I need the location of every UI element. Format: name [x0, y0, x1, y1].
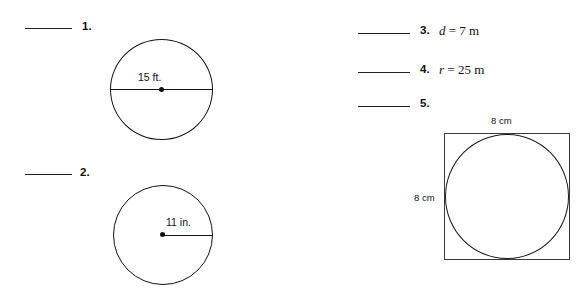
expression-4: r = 25 m	[439, 63, 484, 76]
figure-square-circle-5: 8 cm 8 cm	[406, 116, 576, 266]
expression-value-4: = 25 m	[444, 62, 484, 77]
measure-label-1: 15 ft.	[138, 72, 161, 83]
answer-blank-2[interactable]	[25, 174, 72, 175]
figure-circle-1: 15 ft.	[110, 39, 213, 140]
item-number-1: 1.	[82, 21, 92, 33]
expression-3: d = 7 m	[439, 24, 479, 37]
item-number-3: 3.	[420, 25, 430, 37]
answer-blank-1[interactable]	[25, 28, 72, 29]
square-left-label: 8 cm	[414, 193, 435, 203]
center-point-2	[160, 232, 165, 237]
worksheet-page: 1. 15 ft. 2. 11 in. 3. d = 7 m 4. r = 25…	[0, 0, 586, 305]
item-number-2: 2.	[80, 167, 90, 179]
measure-label-2: 11 in.	[166, 217, 191, 228]
inscribed-circle-5	[445, 134, 569, 259]
figure-circle-2: 11 in.	[113, 185, 213, 285]
item-number-5: 5.	[420, 98, 430, 110]
answer-blank-5[interactable]	[358, 106, 410, 107]
item-number-4: 4.	[420, 64, 430, 76]
square-top-label: 8 cm	[491, 116, 512, 126]
answer-blank-3[interactable]	[358, 33, 410, 34]
center-point-1	[159, 87, 164, 92]
expression-value-3: = 7 m	[446, 23, 480, 38]
answer-blank-4[interactable]	[358, 72, 410, 73]
radius-line-2	[163, 235, 213, 236]
